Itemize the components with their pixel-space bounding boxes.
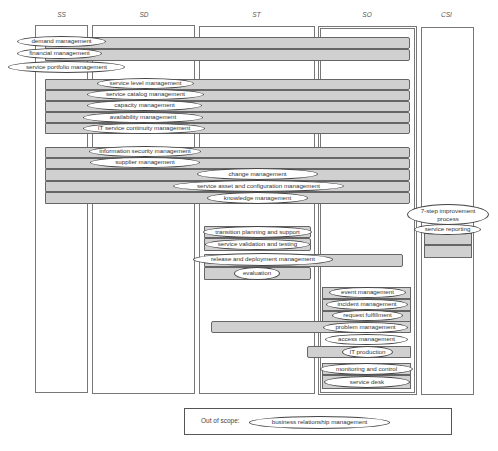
phase-header-st: ST <box>199 11 314 18</box>
process-supplier-management: supplier management <box>90 157 200 168</box>
phase-header-sd: SD <box>93 11 195 18</box>
process-financial-management: financial management <box>17 48 102 59</box>
process-availability-management: availability management <box>83 112 203 123</box>
process-transition-planning-and-support: transition planning and support <box>203 226 312 238</box>
phase-header-ss: SS <box>35 11 88 18</box>
process-it-service-continuity-management: IT service continuity management <box>83 123 205 134</box>
process-service-desk: service desk <box>324 376 410 388</box>
process-problem-management: problem management <box>323 322 408 333</box>
process-incident-management: incident management <box>326 299 408 310</box>
phase-header-csi: CSI <box>420 11 473 18</box>
process-service-portfolio-management: service portfolio management <box>8 61 125 73</box>
process-service-reporting: service reporting <box>414 224 481 235</box>
process-evaluation: evaluation <box>234 267 280 280</box>
process-capacity-management: capacity management <box>87 100 202 111</box>
process-information-security-management: information security management <box>89 146 201 157</box>
process-service-validation-and-testing: service validation and testing <box>205 239 310 250</box>
process-7-step-improvement-process: 7-step improvement process <box>407 204 489 225</box>
process-it-production: IT production <box>342 346 393 358</box>
process-service-asset-and-configuration-management: service asset and configuration manageme… <box>173 180 344 192</box>
out-of-scope-label: Out of scope: <box>201 417 240 424</box>
process-event-management: event management <box>329 287 406 298</box>
process-service-catalog-management: service catalog management <box>87 89 204 100</box>
process-change-management: change management <box>197 168 318 180</box>
process-access-management: access management <box>325 334 408 345</box>
process-release-and-deployment-management: release and deployment management <box>193 253 333 266</box>
process-knowledge-management: knowledge management <box>207 192 308 204</box>
process-request-fulfillment: request fulfillment <box>332 310 403 321</box>
process-service-level-management: service level management <box>97 78 194 89</box>
process-demand-management: demand management <box>17 36 106 47</box>
bar-csi-2 <box>424 245 472 258</box>
process-business-relationship-management: business relationship management <box>249 416 390 429</box>
process-monitoring-and-control: monitoring and control <box>320 363 413 375</box>
phase-header-so: SO <box>318 11 416 18</box>
